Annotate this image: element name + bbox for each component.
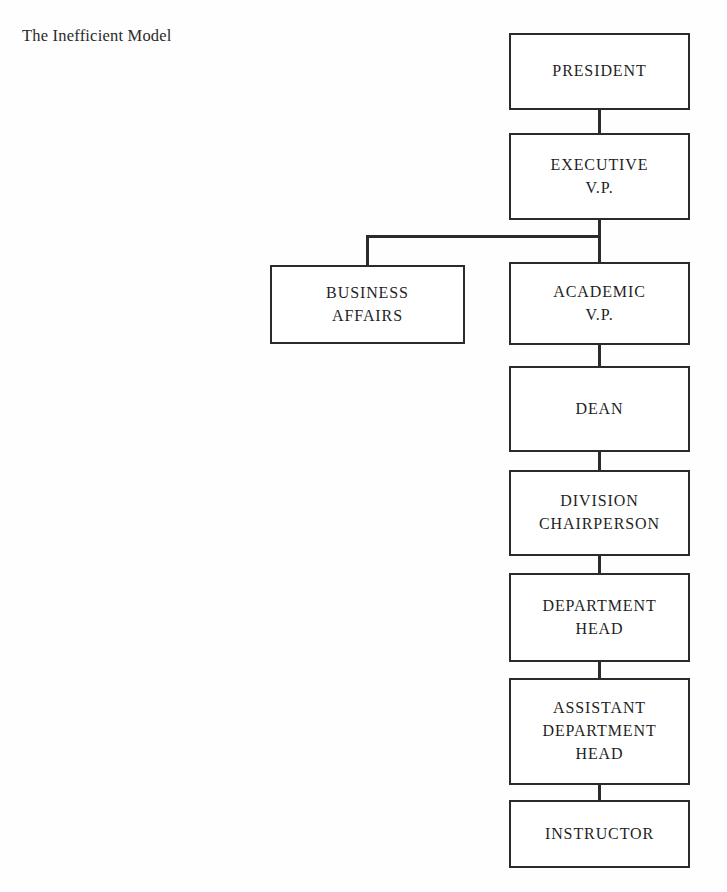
node-label-department-head: DEPARTMENT HEAD <box>536 595 662 640</box>
connector-branch-horizontal <box>366 235 600 238</box>
node-division-chair[interactable]: DIVISION CHAIRPERSON <box>509 470 690 556</box>
node-label-business-affairs: BUSINESS AFFAIRS <box>320 282 415 327</box>
node-asst-dept-head[interactable]: ASSISTANT DEPARTMENT HEAD <box>509 678 690 785</box>
node-label-executive-vp: EXECUTIVE V.P. <box>545 154 655 199</box>
connector-dean-to-division-chair <box>598 452 601 471</box>
node-label-academic-vp: ACADEMIC V.P. <box>547 281 652 326</box>
node-department-head[interactable]: DEPARTMENT HEAD <box>509 573 690 662</box>
node-label-asst-dept-head: ASSISTANT DEPARTMENT HEAD <box>536 697 662 765</box>
connector-division-chair-to-dept-head <box>598 556 601 574</box>
org-chart-page: The Inefficient Model PRESIDENTEXECUTIVE… <box>0 0 727 892</box>
node-executive-vp[interactable]: EXECUTIVE V.P. <box>509 133 690 220</box>
connector-president-to-executive-vp <box>598 110 601 133</box>
connector-branch-to-business-affairs <box>366 235 369 266</box>
node-academic-vp[interactable]: ACADEMIC V.P. <box>509 262 690 345</box>
connector-asst-dept-head-to-instructor <box>598 785 601 801</box>
node-business-affairs[interactable]: BUSINESS AFFAIRS <box>270 265 465 344</box>
node-label-division-chair: DIVISION CHAIRPERSON <box>533 490 666 535</box>
node-label-president: PRESIDENT <box>546 60 652 83</box>
node-instructor[interactable]: INSTRUCTOR <box>509 800 690 868</box>
connector-academic-vp-to-dean <box>598 345 601 367</box>
connector-dept-head-to-asst-dept-head <box>598 662 601 679</box>
node-president[interactable]: PRESIDENT <box>509 33 690 110</box>
node-label-instructor: INSTRUCTOR <box>539 823 660 846</box>
page-title: The Inefficient Model <box>22 26 172 46</box>
node-label-dean: DEAN <box>569 398 629 421</box>
node-dean[interactable]: DEAN <box>509 366 690 452</box>
connector-executive-vp-stem <box>598 220 601 262</box>
